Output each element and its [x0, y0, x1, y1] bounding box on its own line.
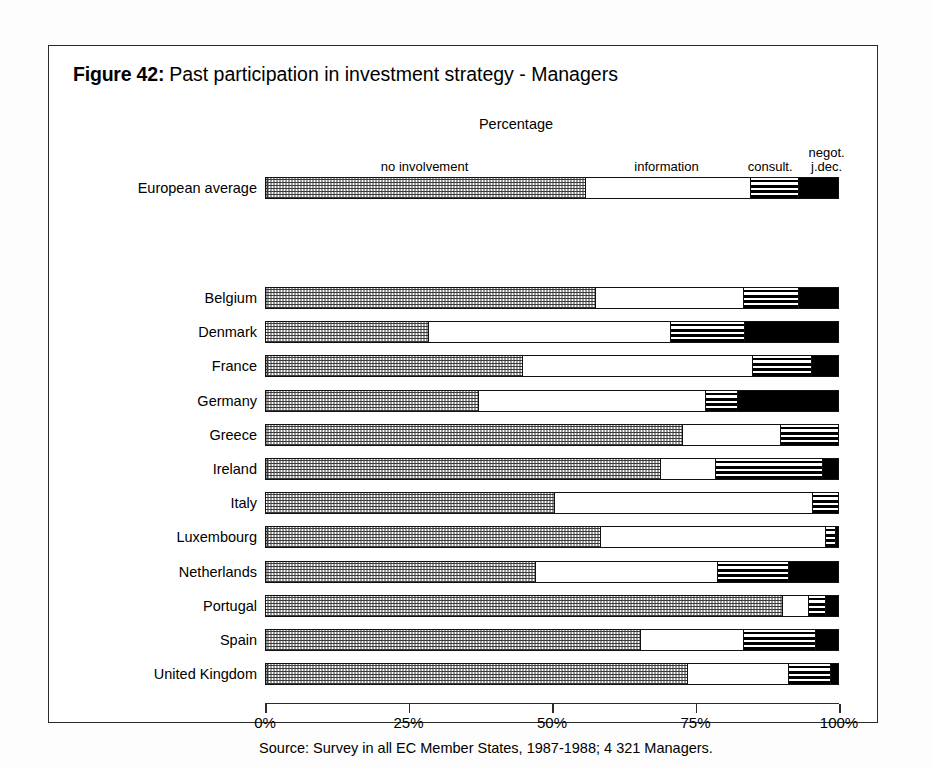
segment-negot-jdec	[737, 391, 839, 411]
chart-row: Luxembourg	[49, 526, 839, 548]
segment-no-involvement	[266, 391, 478, 411]
stacked-bar	[265, 663, 839, 685]
segment-consult	[752, 356, 811, 376]
segment-consult	[717, 562, 788, 582]
category-label: Italy	[97, 492, 257, 514]
axis-tick-label: 25%	[393, 714, 423, 731]
axis-tick	[552, 704, 554, 713]
segment-negot-jdec	[830, 664, 839, 684]
segment-information	[428, 322, 670, 342]
segment-negot-jdec	[815, 630, 839, 650]
stacked-bar	[265, 321, 839, 343]
segment-consult	[780, 425, 839, 445]
segment-information	[660, 459, 715, 479]
segment-no-involvement	[266, 664, 687, 684]
segment-consult	[788, 664, 830, 684]
segment-consult	[743, 288, 798, 308]
plot-area: European averageBelgiumDenmarkFranceGerm…	[49, 46, 879, 724]
stacked-bar	[265, 629, 839, 651]
segment-no-involvement	[266, 562, 535, 582]
chart-row: Belgium	[49, 287, 839, 309]
segment-information	[554, 493, 812, 513]
category-label: Denmark	[97, 321, 257, 343]
chart-row: Netherlands	[49, 561, 839, 583]
category-label: Portugal	[97, 595, 257, 617]
stacked-bar	[265, 355, 839, 377]
source-note: Source: Survey in all EC Member States, …	[49, 740, 879, 756]
segment-consult	[705, 391, 738, 411]
segment-no-involvement	[266, 322, 428, 342]
segment-negot-jdec	[788, 562, 839, 582]
chart-row: United Kingdom	[49, 663, 839, 685]
segment-consult	[743, 630, 815, 650]
category-label: Spain	[97, 629, 257, 651]
chart-row: Greece	[49, 424, 839, 446]
stacked-bar	[265, 561, 839, 583]
axis-tick-label: 0%	[254, 714, 276, 731]
axis-tick-label: 50%	[537, 714, 567, 731]
axis-tick	[409, 704, 411, 713]
segment-no-involvement	[266, 527, 600, 547]
stacked-bar	[265, 492, 839, 514]
source-note-text: Source: Survey in all EC Member States, …	[259, 740, 713, 756]
segment-information	[640, 630, 743, 650]
category-label: Luxembourg	[97, 526, 257, 548]
segment-information	[522, 356, 752, 376]
category-label: Germany	[97, 390, 257, 412]
segment-no-involvement	[266, 178, 585, 198]
segment-consult	[825, 527, 835, 547]
segment-consult	[808, 596, 825, 616]
category-label: Belgium	[97, 287, 257, 309]
category-label: United Kingdom	[97, 663, 257, 685]
axis-tick	[265, 704, 267, 713]
category-label: European average	[97, 177, 257, 199]
chart-row: Germany	[49, 390, 839, 412]
stacked-bar	[265, 177, 839, 199]
chart-row: Spain	[49, 629, 839, 651]
segment-information	[682, 425, 780, 445]
segment-consult	[750, 178, 798, 198]
chart-row: Italy	[49, 492, 839, 514]
stacked-bar	[265, 458, 839, 480]
category-label: France	[97, 355, 257, 377]
axis-tick-label: 100%	[820, 714, 858, 731]
segment-information	[687, 664, 788, 684]
figure-page: Figure 42:Past participation in investme…	[0, 0, 931, 767]
segment-no-involvement	[266, 356, 522, 376]
segment-consult	[812, 493, 839, 513]
segment-information	[782, 596, 808, 616]
category-label: Greece	[97, 424, 257, 446]
stacked-bar	[265, 390, 839, 412]
segment-negot-jdec	[835, 527, 839, 547]
chart-row: Denmark	[49, 321, 839, 343]
figure-frame: Figure 42:Past participation in investme…	[48, 45, 878, 723]
segment-negot-jdec	[825, 596, 839, 616]
segment-consult	[715, 459, 822, 479]
segment-negot-jdec	[744, 322, 839, 342]
segment-no-involvement	[266, 630, 640, 650]
segment-no-involvement	[266, 459, 660, 479]
chart-row: Portugal	[49, 595, 839, 617]
axis-tick-label: 75%	[680, 714, 710, 731]
category-label: Ireland	[97, 458, 257, 480]
chart-row: France	[49, 355, 839, 377]
segment-negot-jdec	[822, 459, 839, 479]
category-label: Netherlands	[97, 561, 257, 583]
segment-negot-jdec	[798, 288, 839, 308]
segment-no-involvement	[266, 596, 782, 616]
segment-no-involvement	[266, 288, 595, 308]
stacked-bar	[265, 526, 839, 548]
axis-tick	[696, 704, 698, 713]
stacked-bar	[265, 424, 839, 446]
segment-negot-jdec	[798, 178, 839, 198]
chart-row: European average	[49, 177, 839, 199]
segment-negot-jdec	[811, 356, 839, 376]
x-axis	[265, 703, 839, 714]
segment-information	[478, 391, 705, 411]
segment-information	[595, 288, 743, 308]
segment-information	[535, 562, 717, 582]
segment-information	[585, 178, 750, 198]
segment-consult	[670, 322, 744, 342]
segment-no-involvement	[266, 425, 682, 445]
stacked-bar	[265, 287, 839, 309]
